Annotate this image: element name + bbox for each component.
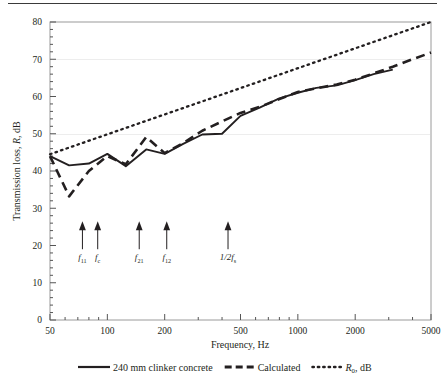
data-series-layer: [50, 22, 431, 196]
plot-frame: [50, 22, 431, 320]
legend-item-1: Calculated: [225, 362, 301, 373]
legend-item-2: R0, dB: [312, 362, 372, 375]
y-axis-tick-labels: 01020304050607080: [33, 17, 43, 325]
legend-item-0: 240 mm clinker concrete: [78, 362, 213, 373]
arrow-head: [79, 221, 86, 230]
faint-gridlines: [51, 60, 430, 135]
annotation-arrows-layer: f11fcf21f121/2fs: [78, 221, 237, 264]
y-tick-label: 40: [33, 166, 43, 176]
y-tick-label: 30: [33, 204, 43, 214]
annotation-f11: f11: [78, 221, 86, 264]
annotation-half-fs: 1/2fs: [220, 221, 237, 264]
annotation-fc: fc: [94, 221, 101, 264]
annotation-label-fc: fc: [95, 252, 101, 264]
annotation-f12: f12: [162, 221, 171, 264]
y-tick-label: 0: [37, 315, 42, 325]
x-axis-tick-labels: 50100200500100020005000: [45, 326, 441, 336]
chart-legend: 240 mm clinker concreteCalculatedR0, dB: [78, 362, 372, 375]
legend-label-0: 240 mm clinker concrete: [113, 362, 213, 373]
arrow-head: [94, 221, 101, 230]
arrow-head: [163, 221, 170, 230]
x-axis-title: Frequency, Hz: [211, 339, 270, 350]
y-tick-label: 70: [33, 55, 43, 65]
x-tick-label: 2000: [346, 326, 365, 336]
x-tick-label: 5000: [422, 326, 441, 336]
chart-figure: 01020304050607080 5010020050010002000500…: [0, 0, 445, 386]
x-tick-label: 1000: [288, 326, 307, 336]
arrow-head: [136, 221, 143, 230]
x-axis-ticks: [50, 314, 431, 320]
annotation-label-half-fs: 1/2fs: [220, 252, 237, 264]
y-tick-label: 80: [33, 17, 43, 27]
legend-label-2: R0, dB: [344, 362, 372, 375]
annotation-label-f21: f21: [135, 252, 144, 264]
x-tick-label: 50: [45, 326, 55, 336]
y-tick-label: 10: [33, 278, 43, 288]
annotation-f21: f21: [135, 221, 144, 264]
annotation-label-f12: f12: [162, 252, 171, 264]
y-tick-label: 50: [33, 129, 43, 139]
x-tick-label: 100: [100, 326, 115, 336]
legend-label-1: Calculated: [258, 362, 301, 373]
y-axis-title: Transmission loss, R, dB: [11, 121, 22, 221]
y-tick-label: 20: [33, 241, 43, 251]
annotation-label-f11: f11: [78, 252, 86, 264]
arrow-head: [225, 221, 232, 230]
x-tick-label: 500: [233, 326, 248, 336]
y-axis-ticks: [50, 22, 56, 320]
x-tick-label: 200: [158, 326, 173, 336]
y-tick-label: 60: [33, 92, 43, 102]
top-horizontal-rule: [8, 3, 437, 4]
transmission-loss-chart: 01020304050607080 5010020050010002000500…: [0, 0, 445, 386]
